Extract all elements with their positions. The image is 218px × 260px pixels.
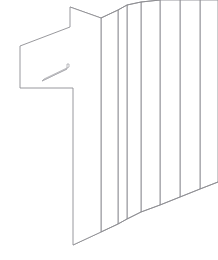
slice-1 [101, 10, 118, 232]
slice-7 [200, 0, 218, 189]
wireframe-illustration: Extruded numeral one wireframe [0, 0, 218, 260]
slice-6 [180, 0, 200, 197]
slice-5 [160, 0, 180, 205]
drawing-canvas: Extruded numeral one wireframe [0, 0, 218, 260]
slice-4 [141, 0, 160, 212]
slice-2 [118, 5, 127, 224]
slice-3 [127, 2, 141, 219]
